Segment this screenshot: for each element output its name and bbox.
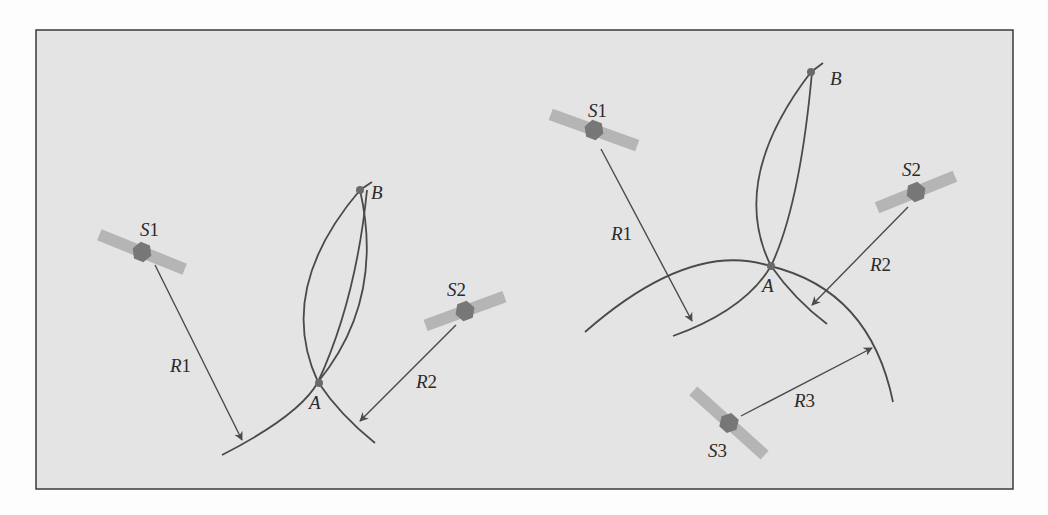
label-s2: S2 — [902, 159, 921, 180]
label-s2: S2 — [447, 279, 466, 300]
label-s1: S1 — [588, 100, 607, 121]
label-point-a: A — [760, 275, 774, 296]
point-a-marker — [315, 379, 323, 387]
figure-page: S1 R1 S2 R2 A B S1 R1 — [0, 0, 1048, 515]
label-s3: S3 — [708, 440, 727, 461]
label-point-b: B — [830, 68, 842, 89]
label-point-a: A — [307, 392, 321, 413]
label-r2: R2 — [415, 371, 437, 392]
point-b-marker — [356, 186, 364, 194]
figure-frame — [36, 30, 1013, 489]
gps-trilateration-diagram: S1 R1 S2 R2 A B S1 R1 — [0, 0, 1048, 515]
label-point-b: B — [371, 182, 383, 203]
label-r1: R1 — [610, 223, 632, 244]
point-b-marker — [807, 68, 815, 76]
point-a-marker — [767, 262, 775, 270]
label-r1: R1 — [169, 355, 191, 376]
label-s1: S1 — [140, 219, 159, 240]
label-r2: R2 — [869, 254, 891, 275]
label-r3: R3 — [793, 390, 815, 411]
